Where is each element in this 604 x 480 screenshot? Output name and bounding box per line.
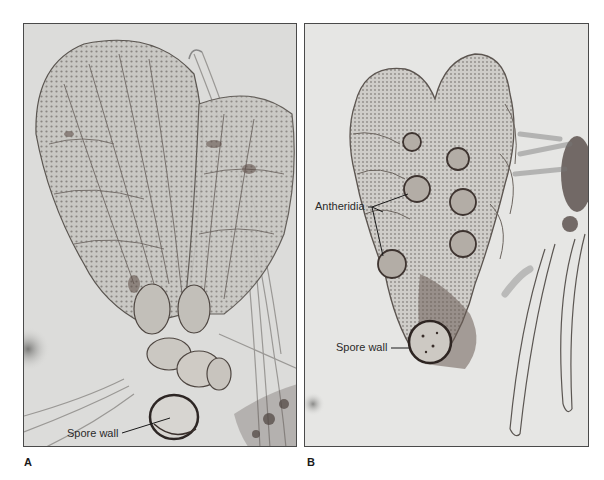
prothallus-image-b bbox=[305, 24, 589, 447]
prothallus-image-a bbox=[24, 24, 297, 447]
label-spore-wall-b: Spore wall bbox=[336, 341, 387, 353]
panel-letter-b: B bbox=[307, 456, 315, 468]
micrograph-panel-a: Spore wall bbox=[23, 23, 297, 447]
panel-letter-a: A bbox=[24, 456, 32, 468]
label-antheridia: Antheridia bbox=[315, 200, 365, 212]
label-spore-wall-a: Spore wall bbox=[67, 427, 118, 439]
micrograph-panel-b: Antheridia Spore wall bbox=[304, 23, 589, 447]
